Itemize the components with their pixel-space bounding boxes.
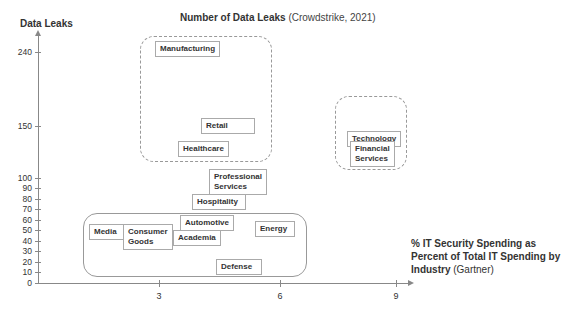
point-hospitality: Hospitality xyxy=(192,194,246,210)
professional-line1: Professional xyxy=(214,172,262,182)
y-tick-mark xyxy=(35,220,41,221)
y-tick-240: 240 xyxy=(2,47,32,57)
x-label-line2: Percent of Total IT Spending by xyxy=(411,251,560,262)
x-tick-mark xyxy=(396,280,397,287)
consumer-line1: Consumer xyxy=(128,227,168,237)
y-tick-60: 60 xyxy=(2,215,32,225)
y-tick-mark xyxy=(35,178,41,179)
y-axis-label: Data Leaks xyxy=(20,18,73,29)
y-tick-80: 80 xyxy=(2,194,32,204)
x-tick-mark xyxy=(280,280,281,287)
y-tick-mark xyxy=(35,283,41,284)
y-tick-70: 70 xyxy=(2,204,32,214)
y-tick-30: 30 xyxy=(2,246,32,256)
point-healthcare: Healthcare xyxy=(178,141,229,157)
y-tick-40: 40 xyxy=(2,236,32,246)
point-retail: Retail xyxy=(201,118,255,134)
y-tick-mark xyxy=(35,272,41,273)
y-axis-line xyxy=(38,34,39,284)
x-label-line3: Industry xyxy=(411,264,450,275)
chart-title-source: (Crowdstrike, 2021) xyxy=(288,12,375,23)
y-tick-20: 20 xyxy=(2,257,32,267)
x-axis-line xyxy=(38,283,410,284)
chart-title-text: Number of Data Leaks xyxy=(180,12,286,23)
point-consumer-goods: Consumer Goods xyxy=(123,224,173,250)
y-tick-mark xyxy=(35,230,41,231)
x-tick-6: 6 xyxy=(270,291,290,301)
y-tick-100: 100 xyxy=(2,173,32,183)
y-tick-mark xyxy=(35,209,41,210)
y-tick-mark xyxy=(35,188,41,189)
x-axis-label: % IT Security Spending as Percent of Tot… xyxy=(411,237,560,276)
financial-line1: Financial xyxy=(355,144,390,154)
point-defense: Defense xyxy=(216,259,262,275)
x-tick-mark xyxy=(159,280,160,287)
point-manufacturing: Manufacturing xyxy=(155,41,220,57)
y-tick-mark xyxy=(35,199,41,200)
point-automotive: Automotive xyxy=(180,215,234,231)
point-media: Media xyxy=(89,224,125,240)
point-financial-services: Financial Services xyxy=(350,141,395,167)
financial-line2: Services xyxy=(355,154,390,164)
y-tick-mark xyxy=(35,251,41,252)
x-label-line1: % IT Security Spending as xyxy=(411,238,536,249)
y-tick-0: 0 xyxy=(2,278,32,288)
y-tick-50: 50 xyxy=(2,225,32,235)
professional-line2: Services xyxy=(214,182,262,192)
x-label-source: (Gartner) xyxy=(453,264,494,275)
chart-title: Number of Data Leaks (Crowdstrike, 2021) xyxy=(180,12,376,23)
y-tick-mark xyxy=(35,262,41,263)
point-energy: Energy xyxy=(255,221,295,237)
point-professional-services: Professional Services xyxy=(209,169,267,195)
y-tick-mark xyxy=(35,241,41,242)
y-tick-mark xyxy=(35,126,41,127)
x-tick-3: 3 xyxy=(149,291,169,301)
y-tick-150: 150 xyxy=(2,121,32,131)
y-tick-90: 90 xyxy=(2,183,32,193)
point-academia: Academia xyxy=(173,230,221,246)
y-axis-arrow-icon xyxy=(35,30,41,36)
y-tick-10: 10 xyxy=(2,267,32,277)
y-tick-mark xyxy=(35,52,41,53)
consumer-line2: Goods xyxy=(128,237,168,247)
x-axis-arrow-icon xyxy=(408,280,414,286)
x-tick-9: 9 xyxy=(386,291,406,301)
